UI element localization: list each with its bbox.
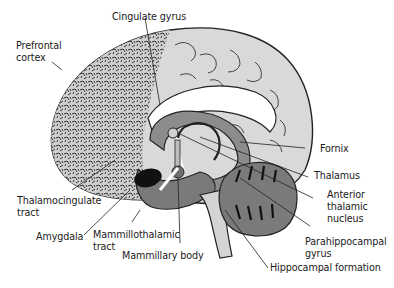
label-anterior-thalamic-nucleus: Anterior thalamic nucleus: [327, 189, 368, 225]
label-thalamocingulate-tract: Thalamocingulate tract: [17, 195, 101, 219]
cerebellum: [219, 162, 297, 236]
anterior-thalamic-nucleus-shape: [168, 128, 178, 138]
label-mammillary-body: Mammillary body: [122, 250, 204, 262]
label-fornix: Fornix: [320, 143, 349, 155]
label-amygdala: Amygdala: [36, 231, 83, 243]
label-parahippocampal-gyrus: Parahippocampal gyrus: [305, 236, 387, 260]
label-prefrontal-cortex: Prefrontal cortex: [16, 40, 62, 64]
limbic-system-diagram: Cingulate gyrus Prefrontal cortex Fornix…: [0, 0, 394, 288]
label-hippocampal-formation: Hippocampal formation: [270, 262, 381, 274]
label-cingulate-gyrus: Cingulate gyrus: [112, 11, 186, 23]
label-thalamus: Thalamus: [314, 170, 360, 182]
